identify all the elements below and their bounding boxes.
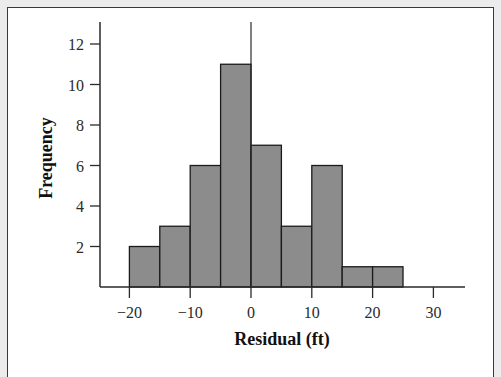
histogram-bar <box>129 247 159 288</box>
y-tick-label: 10 <box>68 77 84 94</box>
y-tick-label: 2 <box>76 239 84 256</box>
histogram-bars <box>129 64 403 287</box>
histogram-bar <box>373 267 403 287</box>
x-tick-label: 10 <box>304 304 320 321</box>
histogram-bar <box>221 64 251 287</box>
y-tick-label: 8 <box>76 117 84 134</box>
x-tick-label: 0 <box>247 304 255 321</box>
y-tick-label: 4 <box>76 198 84 215</box>
x-axis-title: Residual (ft) <box>234 329 330 350</box>
histogram-bar <box>281 226 311 287</box>
x-tick-label: −10 <box>178 304 203 321</box>
y-tick-label: 12 <box>68 36 84 53</box>
y-axis-title: Frequency <box>36 117 56 199</box>
histogram-bar <box>251 145 281 287</box>
histogram-bar <box>312 166 342 288</box>
histogram-bar <box>342 267 372 287</box>
y-tick-label: 6 <box>76 158 84 175</box>
x-tick-label: −20 <box>117 304 142 321</box>
y-axis-ticks: 24681012 <box>68 36 100 256</box>
x-tick-label: 30 <box>425 304 441 321</box>
histogram-bar <box>160 226 190 287</box>
x-axis-ticks: −20−100102030 <box>117 287 442 321</box>
x-tick-label: 20 <box>365 304 381 321</box>
histogram-bar <box>190 166 220 288</box>
